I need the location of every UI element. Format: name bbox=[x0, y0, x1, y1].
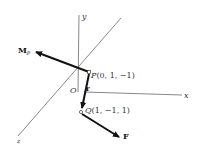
z-axis-label: z bbox=[16, 137, 21, 144]
point-p-coords: (0, 1, −1) bbox=[96, 71, 134, 80]
force-vector-arrow bbox=[82, 114, 119, 137]
y-axis bbox=[78, 15, 79, 92]
moment-vector-label: MP bbox=[18, 45, 31, 56]
force-vector-label: F bbox=[123, 131, 129, 141]
y-axis-label: y bbox=[81, 12, 87, 21]
point-q-coords: (1, −1, 1) bbox=[92, 106, 130, 115]
moment-subscript: P bbox=[26, 50, 31, 56]
position-vector-label: r bbox=[86, 84, 90, 93]
x-axis bbox=[84, 92, 182, 95]
moment-symbol: M bbox=[18, 45, 27, 55]
x-axis-label: x bbox=[184, 91, 189, 100]
origin-label: O bbox=[70, 86, 77, 95]
point-p-label: P(0, 1, −1) bbox=[90, 71, 135, 80]
point-q-marker bbox=[79, 110, 82, 113]
moment-vector-arrow bbox=[36, 52, 89, 72]
point-q-label: Q(1, −1, 1) bbox=[85, 106, 130, 115]
vector-moment-diagram: y x z O P(0, 1, −1) Q(1, −1, 1) MP r F bbox=[0, 0, 200, 154]
